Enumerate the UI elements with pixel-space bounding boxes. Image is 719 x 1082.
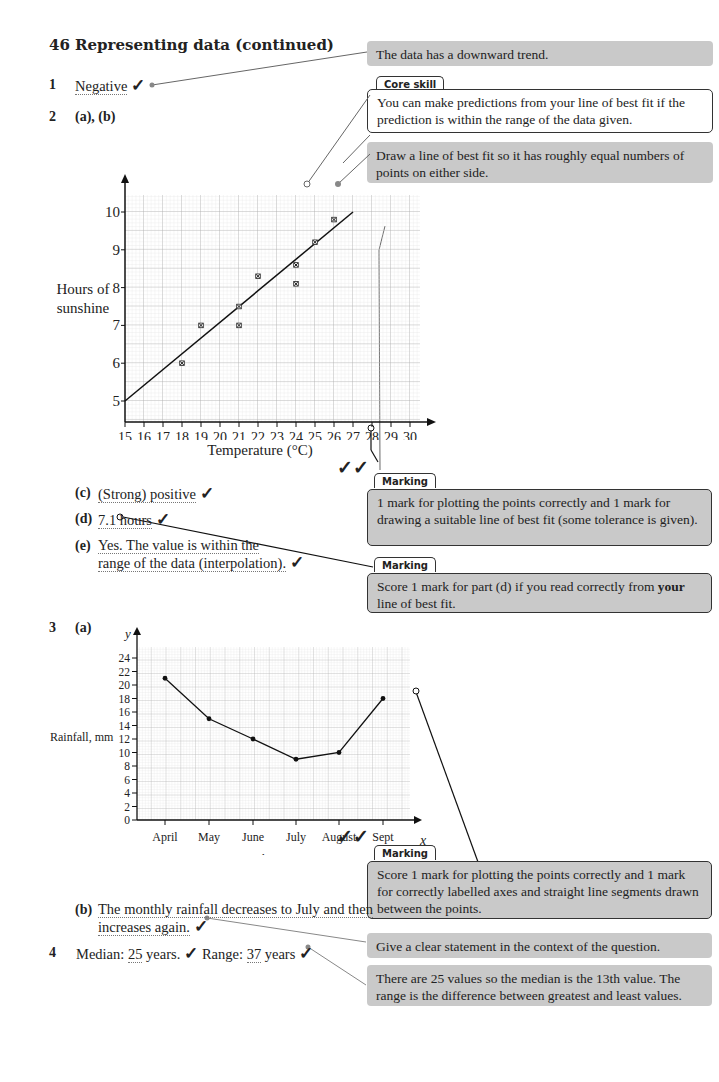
y-tick-label: 7 bbox=[113, 317, 121, 333]
question-number-4: 4 bbox=[49, 945, 56, 961]
median-value: 25 bbox=[128, 946, 143, 963]
x-tick-label: July bbox=[286, 830, 306, 844]
marking-tag-1: Marking bbox=[374, 473, 436, 488]
y-tick-label: 5 bbox=[113, 393, 121, 409]
y-tick-label: 18 bbox=[119, 693, 131, 705]
x-tick-label: June bbox=[242, 830, 264, 844]
double-checkmark-icon: ✓✓ bbox=[337, 456, 369, 479]
y-tick-label: 9 bbox=[113, 242, 121, 258]
y-tick-label: 8 bbox=[124, 760, 130, 772]
line-chart-monthly-rainfall: y x 024681012141618202224 AprilMayJuneJu… bbox=[0, 625, 440, 855]
checkmark-icon: ✓ bbox=[194, 917, 208, 936]
q2-c-answer: (Strong) positive✓ bbox=[98, 483, 214, 504]
note-median-range: There are 25 values so the median is the… bbox=[367, 965, 712, 1006]
x-tick-label: 21 bbox=[232, 430, 246, 440]
marking-tag-3: Marking bbox=[374, 845, 436, 860]
q2-d-label: (d) bbox=[75, 511, 92, 527]
q2-d-answer: 7.1 hours✓ bbox=[98, 509, 170, 530]
y-axis-label: Rainfall, mm bbox=[50, 730, 114, 744]
marking-note-2: Score 1 mark for part (d) if you read co… bbox=[367, 573, 712, 613]
x-tick-label: April bbox=[152, 830, 178, 844]
y-tick-label: 14 bbox=[119, 720, 131, 732]
x-axis-label: Month bbox=[236, 852, 268, 855]
marking2-text-bold: your bbox=[658, 579, 685, 594]
y-tick-label: 6 bbox=[124, 774, 130, 786]
range-label: Range: bbox=[202, 946, 243, 962]
q2-c-label: (c) bbox=[75, 485, 91, 501]
marking2-text-pre: Score 1 mark for part (d) if you read co… bbox=[377, 579, 658, 594]
q3-b-label: (b) bbox=[75, 902, 92, 918]
x-tick-label: 27 bbox=[346, 430, 360, 440]
y-tick-label: 4 bbox=[124, 787, 130, 799]
x-tick-label: 15 bbox=[118, 430, 132, 440]
marking2-text-post: line of best fit. bbox=[377, 596, 456, 611]
y-tick-label: 20 bbox=[119, 679, 131, 691]
q2-e-answer: Yes. The value is within the range of th… bbox=[98, 536, 304, 572]
y-tick-label: 6 bbox=[113, 355, 121, 371]
x-tick-label: 16 bbox=[137, 430, 151, 440]
q4-answer: Median: 25 years.✓ Range: 37 years✓ bbox=[76, 943, 313, 964]
y-tick-label: 10 bbox=[119, 747, 131, 759]
range-unit: years bbox=[265, 946, 296, 962]
q2-e-answer-line2: range of the data (interpolation). bbox=[98, 555, 286, 572]
y-tick-label: 10 bbox=[105, 204, 120, 220]
x-tick-label: 24 bbox=[289, 430, 303, 440]
x-tick-label: 26 bbox=[327, 430, 341, 440]
data-point bbox=[337, 750, 342, 755]
x-tick-label: 18 bbox=[175, 430, 189, 440]
data-point bbox=[381, 696, 386, 701]
y-tick-label: 2 bbox=[124, 801, 130, 813]
y-axis-label-line2: sunshine bbox=[57, 300, 110, 316]
data-point bbox=[294, 757, 299, 762]
note-context: Give a clear statement in the context of… bbox=[367, 933, 712, 958]
data-point bbox=[163, 676, 168, 681]
q2-e-answer-line1: Yes. The value is within the bbox=[98, 537, 259, 554]
range-value: 37 bbox=[247, 946, 262, 963]
y-tick-label: 8 bbox=[113, 280, 121, 296]
q3-b-answer: The monthly rainfall decreases to July a… bbox=[98, 900, 373, 936]
data-point bbox=[207, 716, 212, 721]
x-tick-label: May bbox=[198, 830, 220, 844]
checkmark-icon: ✓ bbox=[290, 553, 304, 572]
y-axis-letter: y bbox=[123, 626, 131, 641]
q3-b-answer-line1: The monthly rainfall decreases to July a… bbox=[98, 901, 373, 918]
y-tick-label: 22 bbox=[119, 666, 131, 678]
y-tick-label: 16 bbox=[119, 706, 131, 718]
marking-note-1: 1 mark for plotting the points correctly… bbox=[367, 489, 712, 546]
y-tick-label: 12 bbox=[119, 733, 131, 745]
x-tick-label: Sept bbox=[372, 830, 394, 844]
q2-c-answer-text: (Strong) positive bbox=[98, 486, 196, 503]
scatter-chart-temperature-sunshine: 5678910 15161718192021222324252627282930… bbox=[0, 170, 450, 440]
x-tick-label: 29 bbox=[384, 430, 398, 440]
x-tick-label: 20 bbox=[213, 430, 227, 440]
y-axis-label-line1: Hours of bbox=[57, 281, 110, 297]
checkmark-icon: ✓ bbox=[184, 944, 198, 963]
y-tick-label: 0 bbox=[124, 814, 130, 826]
x-tick-label: 19 bbox=[194, 430, 208, 440]
q2-e-label: (e) bbox=[75, 538, 91, 554]
x-tick-label: 25 bbox=[308, 430, 322, 440]
q2-d-answer-text: 7.1 hours bbox=[98, 512, 152, 529]
marking-note-3: Score 1 mark for plotting the points cor… bbox=[367, 861, 712, 919]
x-tick-label: 22 bbox=[251, 430, 265, 440]
x-tick-label: 23 bbox=[270, 430, 284, 440]
data-point bbox=[251, 737, 256, 742]
median-unit: years. bbox=[146, 946, 180, 962]
marking-tag-2: Marking bbox=[374, 557, 436, 572]
q3-b-answer-line2: increases again. bbox=[98, 919, 190, 936]
median-label: Median: bbox=[76, 946, 124, 962]
x-tick-label: 17 bbox=[156, 430, 170, 440]
double-checkmark-icon: ✓✓ bbox=[337, 825, 369, 848]
x-tick-label: 30 bbox=[403, 430, 417, 440]
checkmark-icon: ✓ bbox=[156, 510, 170, 529]
y-tick-label: 24 bbox=[119, 652, 131, 664]
checkmark-icon: ✓ bbox=[299, 944, 313, 963]
x-tick-label: 28 bbox=[365, 430, 379, 440]
chart1-x-axis-label: Temperature (°C) bbox=[190, 442, 330, 459]
checkmark-icon: ✓ bbox=[200, 484, 214, 503]
